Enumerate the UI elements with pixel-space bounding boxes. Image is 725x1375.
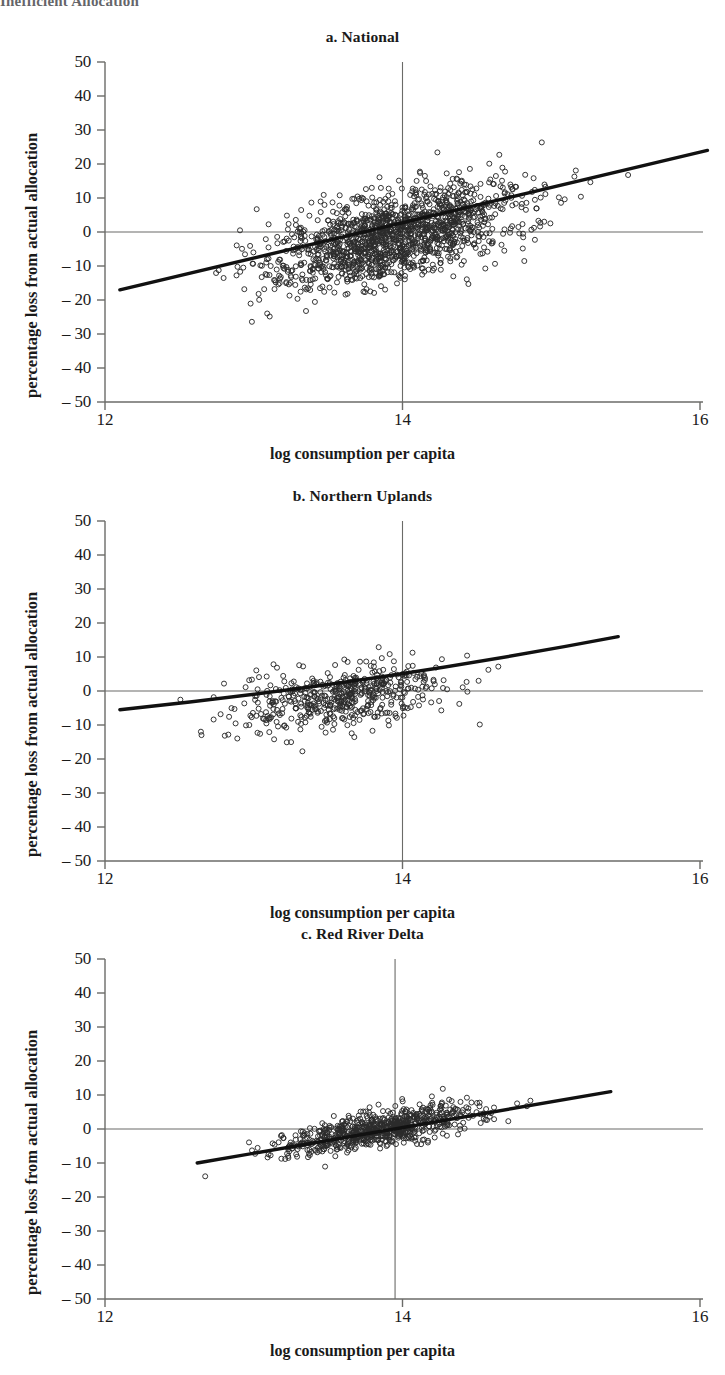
x-tick-label: 16	[692, 1307, 709, 1327]
panel-title-national: a. National	[0, 28, 725, 46]
plot-area-red-river-delta	[0, 949, 725, 1309]
regression-line	[197, 1092, 611, 1163]
x-tick-label: 14	[394, 869, 411, 889]
plot-area-northern-uplands	[0, 511, 725, 871]
x-tick-label: 12	[97, 1307, 114, 1327]
x-axis-label: log consumption per capita	[0, 1342, 725, 1360]
x-tick-label: 14	[394, 1307, 411, 1327]
x-axis-label: log consumption per capita	[0, 445, 725, 463]
x-tick-label: 16	[692, 410, 709, 430]
clipped-page-header: Inefficient Allocation	[0, 0, 139, 10]
panel-title-northern-uplands: b. Northern Uplands	[0, 487, 725, 505]
x-tick-label: 16	[692, 869, 709, 889]
x-tick-label: 14	[394, 410, 411, 430]
plot-area-national	[0, 52, 725, 412]
panel-title-red-river-delta: c. Red River Delta	[0, 925, 725, 943]
regression-line	[120, 150, 708, 289]
x-tick-label: 12	[97, 410, 114, 430]
x-tick-label: 12	[97, 869, 114, 889]
x-axis-label: log consumption per capita	[0, 904, 725, 922]
